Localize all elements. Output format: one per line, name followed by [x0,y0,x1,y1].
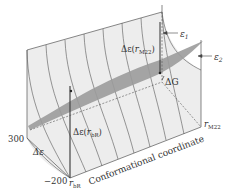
eps1-label: ε1 [180,29,189,40]
y-bottom-label: −200 [44,176,67,186]
energy-surface-diagram: ε1 ε2 Δε(rM22) ΔG Δε(rbR) 300 Δε −200 rb… [0,0,237,193]
x-end-label: rM22 [204,119,221,130]
y-top-label: 300 [8,134,24,144]
point-M22 [159,72,162,75]
x-start-label: rbR [69,178,82,189]
point-bR [70,90,72,92]
y-axis-label: Δε [32,147,44,157]
delta-g-label: ΔG [165,77,179,87]
eps2-label: ε2 [214,52,223,63]
